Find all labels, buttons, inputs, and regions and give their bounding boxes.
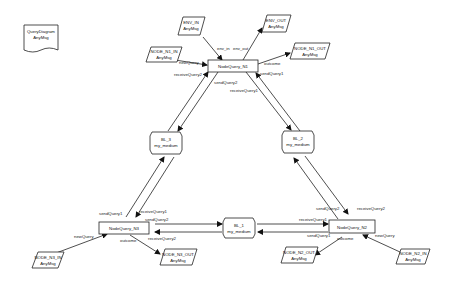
svg-text:AnyMsg: AnyMsg (405, 257, 421, 262)
edge-n1-to-bl3 (178, 72, 218, 131)
edge-label-n1-receivequery1: receiveQuery1 (230, 88, 259, 93)
svg-text:NODE_N2_OUT: NODE_N2_OUT (283, 250, 315, 255)
svg-text:AnyMsg: AnyMsg (183, 26, 199, 31)
edge-label-n3-sendquery1: sendQuery1 (99, 211, 123, 216)
query-diagram-canvas: QueryDiagram AnyMsg NodeQuery_N1 NodeQue… (0, 0, 456, 283)
svg-text:NODE_N1_IN: NODE_N1_IN (151, 49, 178, 54)
edge-label-n3-outcome: outcome (120, 238, 137, 243)
medium-bl1[interactable]: BL_1 my_medium (223, 218, 255, 238)
edge-bl2-to-n1 (256, 73, 300, 131)
edge-label-n1-newquery: newQuery (179, 60, 199, 65)
svg-text:my_medium: my_medium (227, 229, 251, 234)
edge-bl3-to-n1 (168, 72, 208, 131)
port-node-n2-out[interactable]: NODE_N2_OUT AnyMsg (281, 247, 318, 263)
svg-text:NodeQuery_N1: NodeQuery_N1 (218, 64, 248, 69)
edge-label-env-in: env_in (217, 46, 230, 51)
edge-bl3-to-n3 (136, 157, 174, 217)
edge-label-n1-receivequery2: receiveQuery2 (174, 72, 203, 77)
edge-env-out (243, 28, 262, 60)
svg-text:AnyMsg: AnyMsg (291, 256, 307, 261)
port-node-n2-in[interactable]: NODE_N2_IN AnyMsg (396, 249, 430, 264)
svg-text:ENV_OUT: ENV_OUT (266, 18, 287, 23)
edge-label-n3-receivequery1: receiveQuery1 (139, 209, 168, 214)
svg-text:AnyMsg: AnyMsg (268, 24, 284, 29)
port-node-n1-out[interactable]: NODE_N1_OUT AnyMsg (290, 43, 330, 59)
edge-label-n2-newquery: newQuery (375, 233, 395, 238)
medium-bl3[interactable]: BL_3 my_medium (150, 132, 182, 154)
svg-text:NodeQuery_N3: NodeQuery_N3 (109, 226, 139, 231)
svg-text:NodeQuery_N2: NodeQuery_N2 (337, 225, 367, 230)
node-nodequery-n3[interactable]: NodeQuery_N3 (99, 222, 149, 234)
node-nodequery-n1[interactable]: NodeQuery_N1 (208, 60, 258, 72)
legend-document-icon: QueryDiagram AnyMsg (24, 25, 58, 52)
svg-text:AnyMsg: AnyMsg (302, 52, 318, 57)
svg-text:BL_2: BL_2 (293, 136, 304, 141)
port-env-out[interactable]: ENV_OUT AnyMsg (262, 15, 291, 32)
svg-text:my_medium: my_medium (286, 142, 310, 147)
svg-text:AnyMsg: AnyMsg (40, 261, 56, 266)
edge-label-n3-newquery: newQuery (74, 234, 94, 239)
medium-bl2[interactable]: BL_2 my_medium (282, 131, 314, 153)
edge-label-n1-sendquery1: sendQuery1 (260, 71, 284, 76)
legend-title: QueryDiagram (27, 29, 55, 34)
svg-text:AnyMsg: AnyMsg (156, 55, 172, 60)
svg-text:BL_3: BL_3 (161, 137, 172, 142)
svg-text:NODE_N2_IN: NODE_N2_IN (400, 251, 427, 256)
svg-text:ENV_IN: ENV_IN (183, 20, 199, 25)
edge-label-n2-receivequery2: receiveQuery2 (357, 206, 386, 211)
port-node-n3-in[interactable]: NODE_N3_IN AnyMsg (32, 252, 64, 268)
edge-n1-to-bl2 (246, 72, 291, 130)
svg-text:BL_1: BL_1 (234, 223, 245, 228)
svg-text:NODE_N3_IN: NODE_N3_IN (35, 255, 62, 260)
port-node-n1-in[interactable]: NODE_N1_IN AnyMsg (146, 47, 182, 62)
edge-label-n1-outcome: outcome (264, 61, 281, 66)
edge-label-env-out: env_out (233, 46, 249, 51)
edge-label-n2-receivequery1: receiveQuery1 (299, 217, 328, 222)
svg-text:NODE_N1_OUT: NODE_N1_OUT (294, 46, 326, 51)
svg-text:my_medium: my_medium (154, 143, 178, 148)
node-nodequery-n2[interactable]: NodeQuery_N2 (329, 220, 375, 233)
legend-subtitle: AnyMsg (33, 35, 49, 40)
edge-label-n1-sendquery2: sendQuery2 (214, 80, 238, 85)
edge-label-n2-outcome: outcome (337, 236, 354, 241)
svg-text:AnyMsg: AnyMsg (170, 258, 186, 263)
edge-label-n3-receivequery2: receiveQuery2 (148, 236, 177, 241)
port-env-in[interactable]: ENV_IN AnyMsg (178, 17, 205, 35)
edge-label-n2-sendquery1: sendQuery1 (307, 233, 331, 238)
svg-text:NODE_N3_OUT: NODE_N3_OUT (162, 252, 194, 257)
edge-n3-to-bl3 (126, 157, 164, 217)
edge-label-n3-sendquery2: sendQuery2 (145, 217, 169, 222)
port-node-n3-out[interactable]: NODE_N3_OUT AnyMsg (160, 249, 197, 265)
edge-label-n2-sendquery2: sendQuery2 (316, 206, 340, 211)
